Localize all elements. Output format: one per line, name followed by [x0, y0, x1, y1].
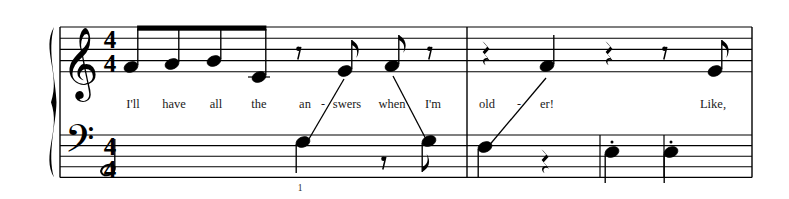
eighth-note-flagged-1 — [337, 40, 359, 78]
quarter-note-staccato-1-head — [604, 145, 621, 160]
lyric-syllable: old — [479, 98, 495, 111]
quarter-note-staccato-1 — [604, 141, 621, 184]
brace-glyph — [49, 27, 56, 177]
treble-clef-icon: 𝄞 — [62, 26, 99, 102]
eighth-rest-3 — [662, 47, 667, 60]
quarter-rest-3 — [541, 149, 549, 173]
lyric-syllable: all — [210, 98, 223, 111]
bass-clef-icon: 𝄢 — [65, 116, 95, 170]
quarter-rest-3-glyph — [541, 149, 549, 173]
lyric-syllable: an — [299, 98, 311, 111]
measure-number: 1 — [298, 183, 303, 193]
lyric-syllable: Like, — [700, 98, 726, 111]
quarter-rest-1 — [482, 41, 490, 65]
quarter-note-staccato-2 — [663, 141, 680, 184]
quarter-rest-2-glyph — [605, 41, 613, 65]
eighth-note-flagged-1-head — [337, 64, 354, 79]
system-brace — [49, 27, 56, 177]
stem-connector-answers — [306, 79, 344, 144]
treble-time-denominator: 4 — [104, 50, 117, 77]
eighth-note-beamed-2 — [164, 29, 181, 71]
eighth-rest-4 — [381, 157, 386, 170]
eighth-rest-1 — [296, 47, 301, 60]
lyric-syllable: swers — [333, 98, 361, 111]
quarter-note-staccato-2-staccato-dot — [670, 141, 673, 144]
quarter-note-staccato-2-head — [663, 145, 680, 160]
lyric-syllable: when — [378, 98, 405, 111]
eighth-note-flagged-2 — [384, 35, 406, 73]
eighth-note-flagged-3 — [707, 40, 729, 78]
lyric-syllable: I'll — [126, 98, 139, 111]
eighth-note-flagged-3-head — [707, 64, 724, 79]
treble-time-numerator: 4 — [104, 26, 117, 53]
beam-group-1 — [137, 26, 266, 31]
score-sheet: 𝄞𝄢4444 I'llhaveallthean-swerswhenI'mold-… — [0, 0, 789, 199]
eighth-note-beamed-2-head — [164, 57, 181, 72]
lyric-hyphen: - — [321, 98, 325, 110]
quarter-note-1 — [539, 35, 556, 73]
eighth-note-beamed-3 — [206, 29, 223, 68]
lyric-syllable: have — [162, 98, 186, 111]
lyric-syllable: I'm — [425, 98, 441, 111]
clefs-and-time-signatures: 𝄞𝄢4444 — [62, 26, 117, 183]
quarter-note-3-head — [477, 140, 494, 155]
quarter-rest-2 — [605, 41, 613, 65]
treble-time-signature: 44 — [104, 26, 117, 77]
lyric-syllable: the — [251, 98, 266, 111]
lyric-hyphen: - — [517, 98, 521, 110]
eighth-rest-2 — [427, 47, 432, 60]
eighth-note-beamed-4 — [248, 29, 270, 84]
stem-connector-older — [487, 78, 546, 148]
eighth-note-beamed-1 — [123, 29, 140, 74]
quarter-note-staccato-1-staccato-dot — [611, 141, 614, 144]
quarter-rest-1-glyph — [482, 41, 490, 65]
eighth-note-beamed-3-head — [206, 54, 223, 69]
quarter-note-2-head — [295, 135, 312, 150]
lyric-syllable: er! — [540, 98, 554, 111]
quarter-note-3 — [477, 140, 494, 178]
